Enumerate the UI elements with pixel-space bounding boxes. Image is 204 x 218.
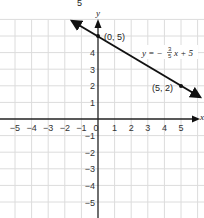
y-tick-label: −3 bbox=[85, 164, 95, 174]
x-axis-arrow-icon bbox=[192, 116, 200, 123]
y-tick-label: 1 bbox=[90, 98, 95, 108]
y-tick-label: 4 bbox=[90, 48, 95, 58]
x-axis: x bbox=[0, 112, 204, 123]
point-0-5 bbox=[96, 34, 100, 38]
y-tick-label: 2 bbox=[90, 81, 95, 91]
point-5-2 bbox=[179, 84, 183, 88]
y-axis-label: y bbox=[95, 8, 100, 18]
x-tick-label: 3 bbox=[145, 123, 150, 133]
y-tick-label: −5 bbox=[85, 198, 95, 208]
x-tick-label: −3 bbox=[43, 123, 53, 133]
x-tick-label: −5 bbox=[10, 123, 20, 133]
top-fragment-label: 5 bbox=[77, 0, 82, 8]
coordinate-plane: 5 x y −5−4−3−2−1012345 4321−1−2−3−4−5 (0… bbox=[0, 0, 204, 218]
y-axis: y bbox=[95, 8, 102, 218]
x-tick-label: 1 bbox=[112, 123, 117, 133]
y-tick-label: 3 bbox=[90, 65, 95, 75]
point-label-0-5: (0, 5) bbox=[104, 32, 125, 42]
y-axis-arrow-icon bbox=[95, 19, 102, 28]
equation-label: y = − 3 5 x + 5 bbox=[140, 45, 198, 59]
x-tick-label: 2 bbox=[129, 123, 134, 133]
x-axis-label: x bbox=[199, 112, 204, 122]
y-tick-label: −1 bbox=[85, 131, 95, 141]
svg-text:y = −: y = − bbox=[141, 48, 163, 58]
x-tick-label: −4 bbox=[26, 123, 36, 133]
y-tick-label: −2 bbox=[85, 148, 95, 158]
x-tick-label: 5 bbox=[178, 123, 183, 133]
x-tick-label: 4 bbox=[162, 123, 167, 133]
y-tick-label: −4 bbox=[85, 181, 95, 191]
svg-text:x + 5: x + 5 bbox=[173, 48, 194, 58]
x-tick-label: −2 bbox=[60, 123, 70, 133]
point-label-5-2: (5, 2) bbox=[152, 83, 173, 93]
x-tick-labels: −5−4−3−2−1012345 bbox=[10, 123, 184, 133]
